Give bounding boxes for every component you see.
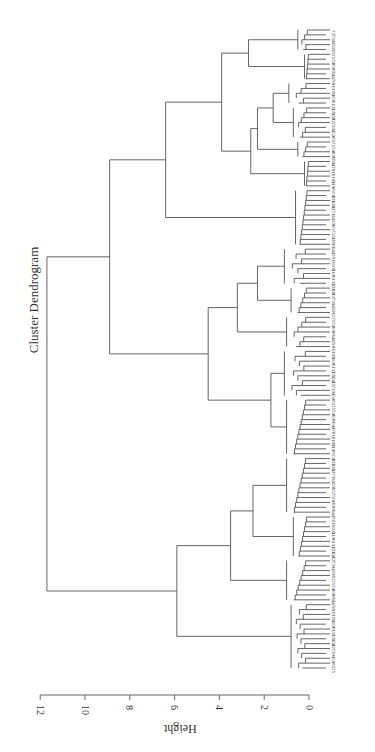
dendrogram-chart: 7273945965757469664478161033196132123134…	[0, 0, 375, 752]
chart-title: Cluster Dendrogram	[26, 247, 42, 354]
axis-tick-label: 12	[35, 705, 46, 715]
chart-title-container: Cluster Dendrogram	[14, 200, 54, 400]
leaf-labels: 7273945965757469664478161033196132123134…	[331, 30, 336, 674]
dendrogram-tree	[47, 30, 330, 668]
height-axis: 024681012	[35, 695, 315, 715]
axis-label-height: Height	[164, 721, 197, 736]
axis-tick-label: 2	[259, 705, 270, 710]
axis-label-container: Height	[150, 718, 210, 738]
axis-tick-label: 6	[169, 705, 180, 710]
axis-tick-label: 8	[124, 705, 135, 710]
axis-tick-label: 0	[304, 705, 315, 710]
axis-tick-label: 10	[80, 705, 91, 715]
leaf-label: 75	[331, 668, 336, 674]
axis-tick-label: 4	[214, 705, 225, 710]
